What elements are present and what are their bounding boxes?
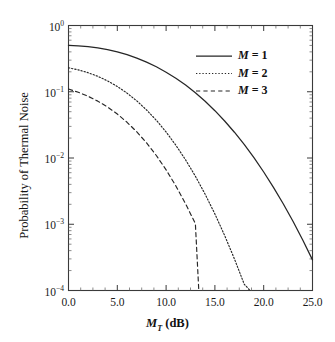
series-curves (69, 45, 313, 290)
plot-frame (69, 26, 313, 291)
x-tick-label: 10.0 (156, 296, 176, 308)
chart-figure: 10010−110−210−310−4 0.05.010.015.020.025… (0, 0, 335, 342)
x-tick-label: 0.0 (61, 296, 75, 308)
x-axis-title: MT (dB) (0, 316, 335, 333)
series-curve-2 (69, 68, 251, 291)
x-tick-label: 20.0 (254, 296, 274, 308)
x-tick-label: 5.0 (110, 296, 124, 308)
legend-entry-3: M = 3 (238, 83, 268, 98)
y-tick-label: 100 (22, 19, 64, 33)
legend-entry-2: M = 2 (238, 66, 268, 81)
legend-entry-1: M = 1 (238, 48, 268, 63)
series-curve-1 (69, 45, 313, 259)
ticks-group (69, 26, 313, 291)
x-tick-label: 15.0 (205, 296, 225, 308)
legend-line-samples (196, 56, 232, 91)
x-tick-label: 25.0 (303, 296, 323, 308)
axes-group (69, 26, 313, 291)
series-curve-3 (69, 89, 199, 290)
y-axis-title: Probability of Thermal Noise (17, 56, 32, 276)
y-tick-label: 10−4 (22, 284, 64, 298)
